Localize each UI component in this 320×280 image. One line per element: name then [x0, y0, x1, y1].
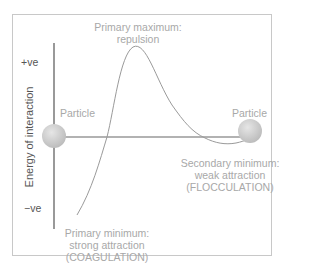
primary-maximum-annotation: Primary maximum: repulsion — [88, 21, 188, 45]
right-particle — [238, 119, 262, 143]
left-particle-label: Particle — [60, 107, 95, 119]
y-axis-label: Energy of interaction — [23, 87, 35, 188]
negative-tick-label: −ve — [24, 202, 41, 214]
primary-minimum-annotation: Primary minimum: strong attraction (COAG… — [60, 227, 154, 263]
left-particle — [42, 124, 66, 148]
right-particle-label: Particle — [232, 107, 267, 119]
secondary-minimum-annotation: Secondary minimum: weak attraction (FLOC… — [180, 157, 280, 193]
positive-tick-label: +ve — [21, 56, 38, 68]
